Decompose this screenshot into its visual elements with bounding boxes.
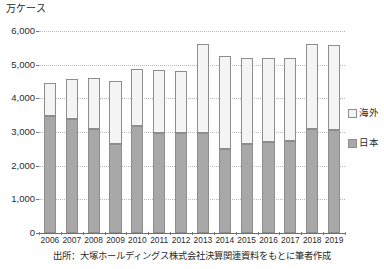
bar-slot[interactable]	[131, 31, 143, 233]
bar-segment-japan[interactable]	[262, 142, 274, 233]
stacked-bar[interactable]	[88, 78, 100, 233]
legend-swatch-japan-icon	[348, 139, 357, 148]
x-tick-mark	[279, 232, 280, 235]
bar-segment-japan[interactable]	[241, 144, 253, 233]
x-tick-label: 2008	[83, 235, 105, 245]
bar-group	[39, 31, 345, 233]
stacked-bar[interactable]	[131, 69, 143, 233]
x-tick-mark	[105, 232, 106, 235]
bar-segment-overseas[interactable]	[262, 58, 274, 143]
x-tick-mark	[126, 232, 127, 235]
bar-segment-overseas[interactable]	[306, 44, 318, 129]
source-note: 出所：大塚ホールディングス株式会社決算関連資料をもとに筆者作成	[0, 251, 384, 262]
bar-segment-overseas[interactable]	[219, 56, 231, 149]
stacked-bar[interactable]	[328, 45, 340, 233]
bar-slot[interactable]	[284, 31, 296, 233]
stacked-bar[interactable]	[197, 44, 209, 233]
stacked-bar[interactable]	[262, 58, 274, 233]
x-tick-mark	[148, 232, 149, 235]
stacked-bar[interactable]	[109, 81, 121, 233]
x-tick-mark	[170, 232, 171, 235]
x-tick-mark	[236, 232, 237, 235]
x-tick-label: 2017	[279, 235, 301, 245]
bar-slot[interactable]	[88, 31, 100, 233]
x-tick-label: 2007	[61, 235, 83, 245]
bar-segment-overseas[interactable]	[131, 69, 143, 126]
bar-segment-overseas[interactable]	[66, 79, 78, 119]
bar-segment-japan[interactable]	[175, 133, 187, 233]
x-tick-mark	[301, 232, 302, 235]
bar-segment-overseas[interactable]	[44, 83, 56, 116]
bar-segment-overseas[interactable]	[153, 70, 165, 132]
bar-segment-japan[interactable]	[284, 141, 296, 233]
y-tick-label: 0	[1, 228, 35, 238]
y-tick-label: 2,000	[1, 161, 35, 171]
bar-slot[interactable]	[219, 31, 231, 233]
stacked-bar[interactable]	[241, 58, 253, 233]
y-tick-label: 6,000	[1, 26, 35, 36]
x-tick-mark	[61, 232, 62, 235]
stacked-bar[interactable]	[284, 58, 296, 233]
stacked-bar[interactable]	[306, 44, 318, 233]
y-tick-label: 5,000	[1, 60, 35, 70]
bar-slot[interactable]	[66, 31, 78, 233]
x-tick-label: 2006	[39, 235, 61, 245]
bar-slot[interactable]	[44, 31, 56, 233]
y-tick-label: 3,000	[1, 127, 35, 137]
bar-segment-japan[interactable]	[131, 126, 143, 233]
bar-segment-overseas[interactable]	[109, 81, 121, 144]
x-tick-label: 2011	[148, 235, 170, 245]
bar-slot[interactable]	[328, 31, 340, 233]
bar-segment-japan[interactable]	[153, 133, 165, 233]
legend-item-overseas: 海外	[348, 106, 384, 120]
bar-segment-japan[interactable]	[306, 129, 318, 233]
stacked-bar[interactable]	[153, 70, 165, 233]
bar-segment-japan[interactable]	[109, 144, 121, 233]
x-tick-label: 2019	[323, 235, 345, 245]
x-tick-label: 2016	[258, 235, 280, 245]
bar-slot[interactable]	[197, 31, 209, 233]
x-tick-mark	[214, 232, 215, 235]
bar-segment-overseas[interactable]	[328, 45, 340, 130]
chart-figure: 万ケース 20062007200820092010201120122013201…	[0, 0, 384, 269]
x-tick-label: 2012	[170, 235, 192, 245]
plot-area	[39, 31, 345, 233]
x-tick-label: 2014	[214, 235, 236, 245]
legend-label-japan: 日本	[359, 138, 379, 148]
stacked-bar[interactable]	[44, 83, 56, 233]
bar-segment-japan[interactable]	[219, 149, 231, 233]
x-tick-label: 2009	[105, 235, 127, 245]
stacked-bar[interactable]	[175, 71, 187, 233]
bar-segment-japan[interactable]	[66, 119, 78, 233]
stacked-bar[interactable]	[66, 79, 78, 233]
x-tick-mark	[345, 232, 346, 235]
bar-slot[interactable]	[175, 31, 187, 233]
bar-segment-japan[interactable]	[197, 133, 209, 233]
x-tick-mark	[39, 232, 40, 235]
bar-segment-japan[interactable]	[88, 129, 100, 233]
bar-slot[interactable]	[241, 31, 253, 233]
y-tick-label: 4,000	[1, 93, 35, 103]
bar-slot[interactable]	[306, 31, 318, 233]
bar-segment-japan[interactable]	[328, 130, 340, 233]
chart-legend: 海外 日本	[348, 106, 384, 166]
stacked-bar[interactable]	[219, 56, 231, 233]
bar-slot[interactable]	[262, 31, 274, 233]
x-tick-label: 2010	[126, 235, 148, 245]
x-tick-label: 2018	[301, 235, 323, 245]
legend-label-overseas: 海外	[359, 108, 379, 118]
bar-segment-overseas[interactable]	[88, 78, 100, 130]
bar-segment-overseas[interactable]	[284, 58, 296, 141]
x-tick-mark	[192, 232, 193, 235]
bar-segment-japan[interactable]	[44, 116, 56, 233]
x-tick-mark	[323, 232, 324, 235]
x-tick-label: 2015	[236, 235, 258, 245]
bar-segment-overseas[interactable]	[175, 71, 187, 133]
y-axis-unit-label: 万ケース	[6, 3, 46, 15]
bar-slot[interactable]	[109, 31, 121, 233]
bar-segment-overseas[interactable]	[241, 58, 253, 144]
bar-segment-overseas[interactable]	[197, 44, 209, 132]
legend-item-japan: 日本	[348, 136, 384, 150]
bar-slot[interactable]	[153, 31, 165, 233]
legend-swatch-overseas-icon	[348, 109, 357, 118]
